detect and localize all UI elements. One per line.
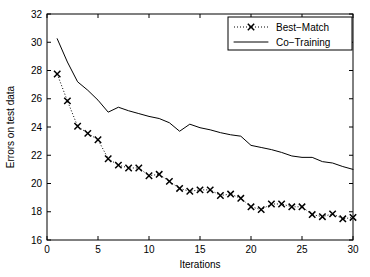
y-tick-label: 20	[31, 178, 43, 189]
x-tick-label: 10	[143, 244, 155, 255]
x-axis-tick-labels: 051015202530	[44, 244, 359, 255]
legend-label: Best−Match	[276, 22, 329, 33]
chart-figure: 051015202530 161820222426283032 Iteratio…	[0, 0, 370, 277]
x-tick-label: 15	[194, 244, 206, 255]
legend-label: Co−Training	[276, 37, 330, 48]
x-tick-label: 0	[44, 244, 50, 255]
y-axis-title: Errors on test data	[5, 85, 16, 168]
x-tick-label: 20	[245, 244, 257, 255]
y-tick-label: 30	[31, 37, 43, 48]
y-tick-label: 24	[31, 122, 43, 133]
x-tick-label: 30	[347, 244, 359, 255]
x-tick-label: 25	[296, 244, 308, 255]
y-tick-label: 22	[31, 150, 43, 161]
chart-canvas: 051015202530 161820222426283032 Iteratio…	[0, 0, 370, 277]
x-axis-title: Iterations	[179, 259, 220, 270]
x-tick-label: 5	[95, 244, 101, 255]
chart-legend: Best−MatchCo−Training	[228, 17, 352, 50]
y-tick-label: 16	[31, 235, 43, 246]
y-tick-label: 32	[31, 9, 43, 20]
y-axis-tick-labels: 161820222426283032	[31, 9, 43, 246]
y-tick-label: 18	[31, 206, 43, 217]
y-tick-label: 28	[31, 65, 43, 76]
y-tick-label: 26	[31, 93, 43, 104]
